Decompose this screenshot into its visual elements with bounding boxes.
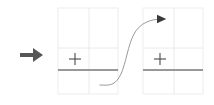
panel-before <box>58 8 118 94</box>
sigmoid-curve <box>100 19 163 85</box>
curve-arrowhead <box>157 15 166 24</box>
panel-border <box>58 8 118 94</box>
panel-border <box>143 8 203 94</box>
plus-marker <box>69 53 81 65</box>
diagram-vector-layer <box>0 0 214 105</box>
right-arrow-glyph <box>20 48 43 62</box>
right-arrow-shaft <box>20 48 43 62</box>
plus-marker <box>154 53 166 65</box>
diagram-canvas: before after right arrow sigmoid S-curve… <box>0 0 214 105</box>
panel-after <box>143 8 203 94</box>
